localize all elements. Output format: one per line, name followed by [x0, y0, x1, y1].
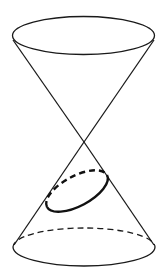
top-ellipse	[13, 17, 155, 55]
upper-right-generator	[84, 40, 154, 142]
section-ellipse-back-dashed	[40, 162, 107, 207]
double-cone-diagram	[0, 0, 162, 267]
upper-nappe	[13, 17, 155, 143]
bottom-ellipse-front	[13, 247, 155, 266]
upper-left-generator	[13, 40, 84, 142]
bottom-ellipse-back-dashed	[13, 228, 155, 247]
lower-right-generator	[84, 142, 154, 245]
